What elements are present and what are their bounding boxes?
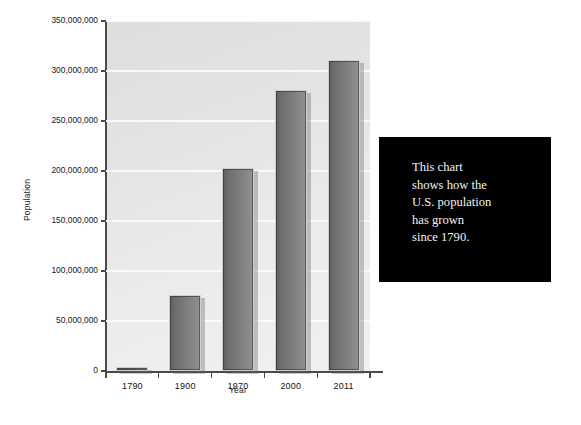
bars-group	[106, 21, 370, 371]
x-axis-tick	[264, 372, 265, 378]
x-axis-tick	[105, 372, 106, 378]
y-axis-label: 150,000,000	[0, 215, 98, 225]
bar-body	[275, 90, 307, 371]
x-axis-title: Year	[106, 385, 370, 395]
y-axis-label: 250,000,000	[0, 115, 98, 125]
x-axis-tick	[211, 372, 212, 378]
y-axis-label: 50,000,000	[0, 315, 98, 325]
plot-area: 17901900197020002011	[106, 21, 370, 371]
bar	[116, 367, 148, 371]
callout-text: This chart shows how the U.S. population…	[412, 159, 542, 247]
y-axis-label: 350,000,000	[0, 15, 98, 25]
bar	[328, 60, 360, 371]
bar-body	[116, 367, 148, 371]
y-axis-label: 200,000,000	[0, 165, 98, 175]
bar-body	[222, 168, 254, 371]
x-axis-tick	[317, 372, 318, 378]
bar-body	[328, 60, 360, 371]
x-axis-tick	[369, 372, 370, 378]
bar	[222, 168, 254, 371]
x-axis-tick	[158, 372, 159, 378]
y-axis-label: 300,000,000	[0, 65, 98, 75]
bar	[275, 90, 307, 371]
population-bar-chart-figure: Population 17901900197020002011 050,000,…	[0, 0, 581, 425]
callout-box: This chart shows how the U.S. population…	[379, 137, 551, 282]
bar-body	[169, 295, 201, 371]
bar	[169, 295, 201, 371]
y-axis-label: 0	[0, 365, 98, 375]
y-axis-label: 100,000,000	[0, 265, 98, 275]
